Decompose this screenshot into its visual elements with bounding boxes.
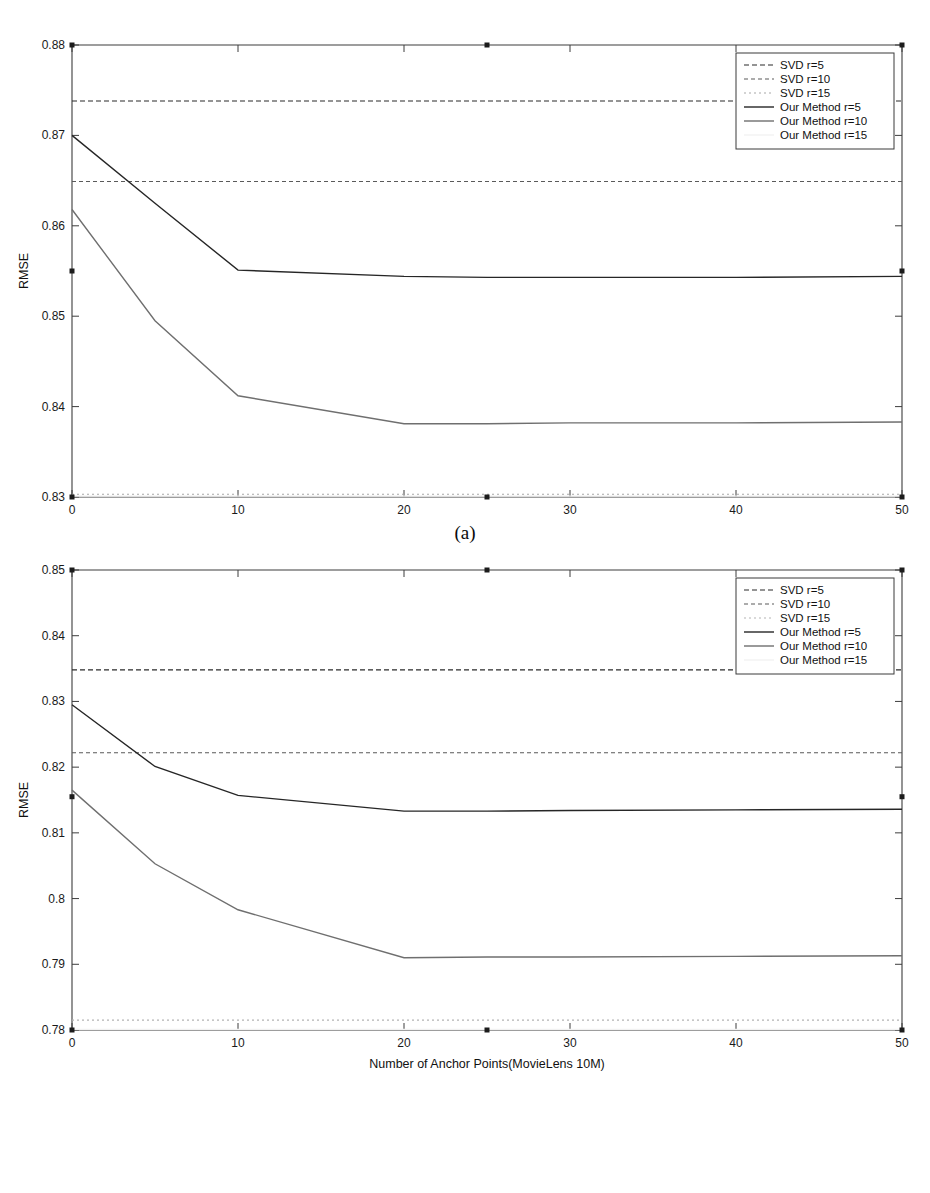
y-tick-label: 0.84 <box>42 629 66 643</box>
data-marker <box>900 269 905 274</box>
x-tick-label: 20 <box>397 503 411 515</box>
data-marker <box>900 495 905 500</box>
series-line <box>72 790 902 958</box>
data-marker <box>70 1028 75 1033</box>
data-marker <box>70 568 75 573</box>
chart-panel-a: 0.830.840.850.860.870.8801020304050Numbe… <box>0 0 930 560</box>
legend-label: Our Method r=10 <box>780 115 867 127</box>
y-tick-label: 0.83 <box>42 490 66 504</box>
y-axis-label: RMSE <box>17 253 31 289</box>
x-tick-label: 10 <box>231 1036 245 1050</box>
data-marker <box>70 495 75 500</box>
legend-label: SVD r=5 <box>780 584 824 596</box>
legend-label: SVD r=15 <box>780 87 830 99</box>
legend-label: Our Method r=15 <box>780 129 867 141</box>
y-tick-label: 0.78 <box>42 1023 66 1037</box>
x-tick-label: 10 <box>231 503 245 515</box>
data-marker <box>70 794 75 799</box>
legend-label: SVD r=5 <box>780 59 824 71</box>
y-tick-label: 0.85 <box>42 563 66 577</box>
series-line <box>72 705 902 811</box>
line-chart-b: 0.780.790.80.810.820.830.840.85010203040… <box>0 548 930 1093</box>
series-line <box>72 210 902 424</box>
y-tick-label: 0.82 <box>42 760 66 774</box>
data-marker <box>485 1028 490 1033</box>
legend-label: Our Method r=15 <box>780 654 867 666</box>
y-tick-label: 0.86 <box>42 219 66 233</box>
data-marker <box>485 43 490 48</box>
x-tick-label: 40 <box>729 1036 743 1050</box>
chart-panel-b: 0.780.790.80.810.820.830.840.85010203040… <box>0 548 930 1193</box>
legend-label: Our Method r=10 <box>780 640 867 652</box>
series-line <box>72 135 902 277</box>
x-axis-label: Number of Anchor Points(MovieLens 10M) <box>369 1057 605 1071</box>
data-marker <box>900 794 905 799</box>
data-marker <box>70 269 75 274</box>
legend-label: SVD r=10 <box>780 73 830 85</box>
legend-label: Our Method r=5 <box>780 101 861 113</box>
x-tick-label: 0 <box>69 1036 76 1050</box>
x-tick-label: 30 <box>563 1036 577 1050</box>
data-marker <box>900 1028 905 1033</box>
y-tick-label: 0.87 <box>42 128 66 142</box>
y-tick-label: 0.8 <box>48 892 65 906</box>
x-tick-label: 50 <box>895 503 909 515</box>
data-marker <box>485 568 490 573</box>
figure-container: 0.830.840.850.860.870.8801020304050Numbe… <box>0 0 930 1193</box>
y-axis-label: RMSE <box>17 782 31 818</box>
legend-label: Our Method r=5 <box>780 626 861 638</box>
x-tick-label: 30 <box>563 503 577 515</box>
data-marker <box>900 43 905 48</box>
legend-label: SVD r=10 <box>780 598 830 610</box>
x-tick-label: 50 <box>895 1036 909 1050</box>
x-tick-label: 20 <box>397 1036 411 1050</box>
y-tick-label: 0.84 <box>42 400 66 414</box>
y-tick-label: 0.83 <box>42 694 66 708</box>
y-tick-label: 0.88 <box>42 38 66 52</box>
line-chart-a: 0.830.840.850.860.870.8801020304050Numbe… <box>0 0 930 515</box>
data-marker <box>900 568 905 573</box>
y-tick-label: 0.79 <box>42 957 66 971</box>
subfigure-caption-a: (a) <box>0 522 930 544</box>
data-marker <box>485 495 490 500</box>
plot-area-b: 0.780.790.80.810.820.830.840.85010203040… <box>0 548 930 1093</box>
legend-label: SVD r=15 <box>780 612 830 624</box>
x-tick-label: 40 <box>729 503 743 515</box>
data-marker <box>70 43 75 48</box>
x-tick-label: 0 <box>69 503 76 515</box>
y-tick-label: 0.81 <box>42 826 66 840</box>
plot-area-a: 0.830.840.850.860.870.8801020304050Numbe… <box>0 0 930 515</box>
y-tick-label: 0.85 <box>42 309 66 323</box>
